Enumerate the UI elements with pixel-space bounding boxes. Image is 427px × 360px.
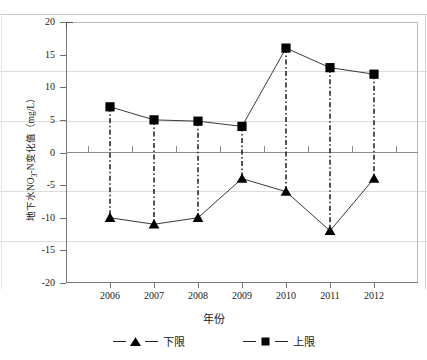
zero-baseline-tick [352, 146, 353, 152]
legend-line-upper-2 [275, 341, 288, 342]
y-axis-tick [60, 87, 66, 88]
zero-baseline-tick [220, 146, 221, 152]
plot-corner-mark-v [66, 22, 67, 29]
x-axis-tick [154, 283, 155, 288]
legend-line-upper [243, 341, 256, 342]
y-axis-title: 地下水NO3-N变化值（mg/L） [26, 52, 40, 262]
y-axis-tick-label: 20 [15, 17, 55, 27]
y-axis-tick [60, 22, 66, 23]
legend-label-lower: 下限 [163, 333, 185, 349]
y-axis-tick [60, 185, 66, 186]
zero-baseline-tick [132, 146, 133, 152]
legend-item-upper[interactable]: 上限 [243, 333, 315, 349]
y-axis-tick [60, 283, 66, 284]
y-axis-tick [60, 153, 66, 154]
zero-baseline [66, 152, 418, 153]
x-axis-tick [330, 283, 331, 288]
x-axis-tick-label: 2012 [351, 290, 397, 301]
x-axis-tick [374, 283, 375, 288]
zero-baseline-tick [88, 146, 89, 152]
x-axis-tick-label: 2006 [87, 290, 133, 301]
legend-line-lower-2 [145, 341, 158, 342]
chart-legend: 下限 上限 [0, 333, 427, 349]
y-axis-tick [60, 55, 66, 56]
plot-corner-mark-h [66, 22, 73, 23]
x-axis-tick [110, 283, 111, 288]
x-axis-tick-label: 2007 [131, 290, 177, 301]
legend-label-upper: 上限 [293, 333, 315, 349]
x-axis-title: 年份 [0, 310, 427, 326]
y-axis-tick [60, 120, 66, 121]
x-axis-tick-label: 2008 [175, 290, 221, 301]
x-axis-tick-label: 2009 [219, 290, 265, 301]
x-axis-tick [198, 283, 199, 288]
line-chart: 20151050-5-10-15-20 20062007200820092010… [0, 0, 427, 360]
x-axis-tick [286, 283, 287, 288]
zero-baseline-tick [396, 146, 397, 152]
legend-line-lower [113, 341, 126, 342]
y-axis-tick [60, 250, 66, 251]
y-axis-tick-label: -20 [15, 278, 55, 288]
y-axis-tick [60, 218, 66, 219]
x-axis-tick-label: 2010 [263, 290, 309, 301]
zero-baseline-tick [176, 146, 177, 152]
x-axis-tick [242, 283, 243, 288]
zero-baseline-tick [308, 146, 309, 152]
x-axis-tick-label: 2011 [307, 290, 353, 301]
triangle-marker-icon [129, 336, 142, 347]
square-marker-icon [259, 336, 272, 347]
legend-item-lower[interactable]: 下限 [113, 333, 185, 349]
zero-baseline-tick [264, 146, 265, 152]
